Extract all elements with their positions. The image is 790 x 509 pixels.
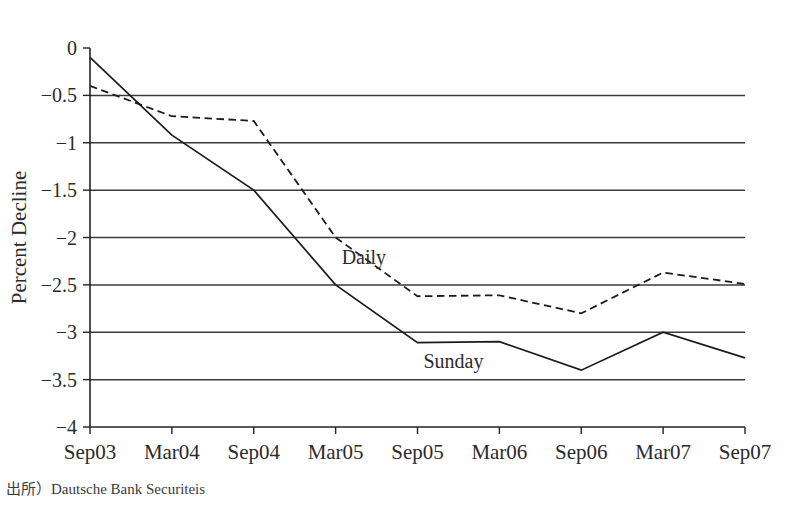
y-tick-label: −2 — [56, 227, 77, 249]
x-tick-label: Mar05 — [308, 440, 364, 464]
x-tick-label: Sep05 — [391, 440, 444, 464]
x-tick-label: Sep04 — [228, 440, 281, 464]
x-tick-label: Mar06 — [471, 440, 527, 464]
y-tick-label: −2.5 — [41, 274, 77, 296]
y-tick-label: −1 — [56, 132, 77, 154]
series-label-group: DailySunday — [342, 246, 484, 373]
y-tick-group: 0−0.5−1−1.5−2−2.5−3−3.5−4 — [41, 37, 90, 438]
y-tick-label: −4 — [56, 416, 77, 438]
gridline-group — [90, 95, 745, 379]
y-tick-label: 0 — [67, 37, 77, 59]
y-axis-title: Percent Decline — [7, 171, 31, 305]
y-tick-label: −0.5 — [41, 84, 77, 106]
series-line-sunday — [90, 57, 745, 370]
series-group — [90, 57, 745, 370]
y-tick-label: −3 — [56, 321, 77, 343]
series-line-daily — [90, 86, 745, 313]
x-tick-label: Sep06 — [555, 440, 608, 464]
source-footnote: 出所）Dautsche Bank Securiteis — [6, 477, 205, 498]
x-tick-label: Sep03 — [64, 440, 117, 464]
x-tick-label: Mar04 — [144, 440, 200, 464]
series-label-sunday: Sunday — [424, 350, 484, 373]
x-tick-group: Sep03Mar04Sep04Mar05Sep05Mar06Sep06Mar07… — [64, 427, 772, 464]
y-tick-label: −1.5 — [41, 179, 77, 201]
x-tick-label: Sep07 — [719, 440, 772, 464]
chart-figure: 0−0.5−1−1.5−2−2.5−3−3.5−4 Sep03Mar04Sep0… — [0, 0, 790, 509]
y-tick-label: −3.5 — [41, 369, 77, 391]
x-tick-label: Mar07 — [635, 440, 691, 464]
series-label-daily: Daily — [342, 246, 386, 269]
line-chart-canvas: 0−0.5−1−1.5−2−2.5−3−3.5−4 Sep03Mar04Sep0… — [0, 0, 790, 509]
